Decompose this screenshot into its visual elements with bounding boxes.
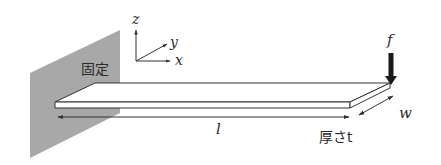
beam-top-face xyxy=(55,83,390,102)
width-label: w xyxy=(399,106,412,121)
z-axis-label: z xyxy=(132,12,139,26)
beam xyxy=(55,83,390,108)
force-arrow xyxy=(385,53,397,85)
length-label: l xyxy=(216,122,221,137)
fixed-support-label: 固定 xyxy=(81,62,109,76)
y-axis-label: y xyxy=(170,35,178,49)
force-label: f xyxy=(387,33,393,48)
x-axis-label: x xyxy=(175,53,183,67)
cantilever-diagram xyxy=(0,0,441,165)
thickness-label: 厚さt xyxy=(319,130,353,144)
y-axis-arrow xyxy=(136,44,167,61)
beam-front-face xyxy=(55,102,350,108)
coordinate-axes xyxy=(136,30,170,61)
